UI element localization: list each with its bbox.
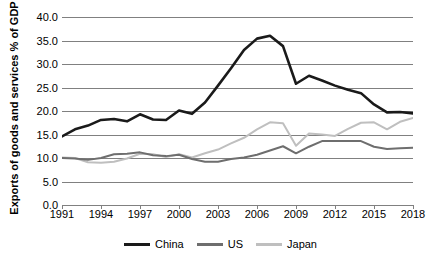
legend-item-japan[interactable]: Japan: [256, 238, 317, 250]
legend-label: Japan: [287, 238, 317, 250]
y-tick-label: 35.0: [14, 35, 58, 47]
y-tick-label: 30.0: [14, 58, 58, 70]
y-tick-label: 25.0: [14, 82, 58, 94]
legend-label: US: [228, 238, 243, 250]
legend-item-us[interactable]: US: [197, 238, 243, 250]
exports-gdp-line-chart: Exports of goods and services % of GDP 0…: [0, 0, 441, 266]
y-tick-label: 5.0: [14, 176, 58, 188]
y-tick-label: 15.0: [14, 129, 58, 141]
series-lines: [62, 17, 413, 205]
legend-swatch-china: [124, 243, 150, 246]
legend-item-china[interactable]: China: [124, 238, 184, 250]
legend-swatch-us: [197, 243, 223, 246]
x-tick-label: 2018: [388, 208, 438, 220]
series-line-us: [62, 141, 413, 162]
series-line-china: [62, 36, 413, 137]
y-tick-label: 40.0: [14, 11, 58, 23]
legend-swatch-japan: [256, 243, 282, 246]
y-tick-label: 10.0: [14, 152, 58, 164]
y-tick-label: 20.0: [14, 105, 58, 117]
chart-legend: ChinaUSJapan: [0, 238, 441, 250]
plot-area: [62, 17, 413, 205]
gridline: [62, 205, 413, 206]
legend-label: China: [155, 238, 184, 250]
